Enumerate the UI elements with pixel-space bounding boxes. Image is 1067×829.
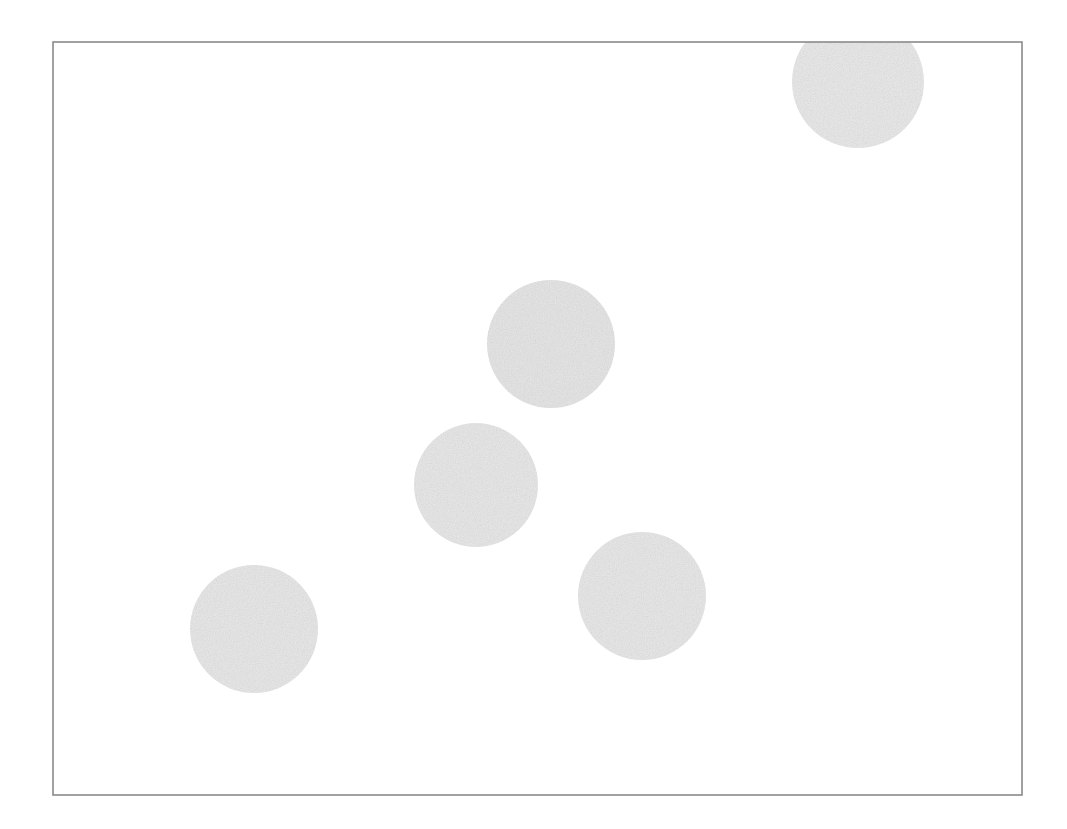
scatter-point-circle-5	[190, 565, 318, 693]
scatter-point-circle-4	[578, 532, 706, 660]
figure-canvas	[0, 0, 1067, 829]
plot-svg	[0, 0, 1067, 829]
plot-area-background	[53, 42, 1022, 795]
scatter-point-circle-2	[487, 280, 615, 408]
scatter-point-circle-3	[414, 423, 538, 547]
